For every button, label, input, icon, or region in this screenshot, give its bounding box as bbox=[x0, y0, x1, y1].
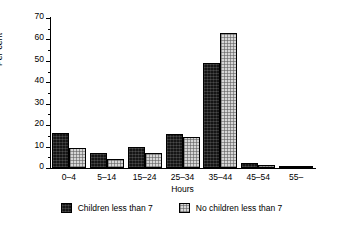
bar bbox=[69, 148, 86, 168]
x-tick-label: 5–14 bbox=[88, 172, 126, 182]
x-tick-label: 25–34 bbox=[164, 172, 202, 182]
bar bbox=[296, 166, 313, 168]
bar-group bbox=[277, 18, 315, 168]
bar bbox=[258, 165, 275, 168]
y-tick-label: 40 bbox=[35, 76, 44, 85]
x-tick-label: 15–24 bbox=[126, 172, 164, 182]
bar-group bbox=[50, 18, 88, 168]
bar-groups bbox=[50, 18, 315, 168]
y-axis-title: Per cent bbox=[0, 33, 4, 66]
y-tick-label: 0 bbox=[39, 162, 44, 171]
x-tick-label: 45–54 bbox=[239, 172, 277, 182]
legend-label: Children less than 7 bbox=[78, 203, 153, 213]
bar-pair bbox=[241, 18, 275, 168]
bar bbox=[90, 153, 107, 168]
bar-group bbox=[201, 18, 239, 168]
bar bbox=[145, 153, 162, 168]
legend-item: Children less than 7 bbox=[61, 203, 153, 213]
bar-pair bbox=[90, 18, 124, 168]
bar bbox=[203, 63, 220, 168]
x-axis-line bbox=[50, 168, 316, 169]
bar bbox=[52, 133, 69, 168]
x-axis-tick-labels: 0–45–1415–2425–3435–4445–5455– bbox=[50, 172, 315, 182]
bar-pair bbox=[166, 18, 200, 168]
x-tick-label: 0–4 bbox=[50, 172, 88, 182]
bar-chart: Per cent 010203040506070 0–45–1415–2425–… bbox=[0, 0, 343, 231]
x-tick-label: 55– bbox=[277, 172, 315, 182]
y-tick-label: 70 bbox=[35, 12, 44, 21]
bar bbox=[166, 134, 183, 168]
y-tick-mark bbox=[46, 168, 50, 169]
x-axis-title: Hours bbox=[50, 184, 315, 194]
y-tick-label: 60 bbox=[35, 33, 44, 42]
bar-pair bbox=[203, 18, 237, 168]
legend-item: No children less than 7 bbox=[179, 203, 282, 213]
bar bbox=[183, 137, 200, 168]
x-tick-label: 35–44 bbox=[201, 172, 239, 182]
y-tick-label: 50 bbox=[35, 55, 44, 64]
bar bbox=[128, 147, 145, 168]
bar bbox=[241, 163, 258, 168]
legend-swatch-icon bbox=[179, 203, 190, 213]
bar-group bbox=[164, 18, 202, 168]
bar-group bbox=[126, 18, 164, 168]
y-tick-label: 20 bbox=[35, 119, 44, 128]
bar-group bbox=[239, 18, 277, 168]
y-tick-label: 10 bbox=[35, 141, 44, 150]
bar bbox=[220, 33, 237, 168]
bar-pair bbox=[52, 18, 86, 168]
y-tick-label: 30 bbox=[35, 98, 44, 107]
bar-pair bbox=[128, 18, 162, 168]
bar bbox=[107, 159, 124, 168]
bar-group bbox=[88, 18, 126, 168]
bar-pair bbox=[279, 18, 313, 168]
bar bbox=[279, 166, 296, 168]
chart-legend: Children less than 7No children less tha… bbox=[0, 203, 343, 213]
legend-label: No children less than 7 bbox=[196, 203, 282, 213]
legend-swatch-icon bbox=[61, 203, 72, 213]
